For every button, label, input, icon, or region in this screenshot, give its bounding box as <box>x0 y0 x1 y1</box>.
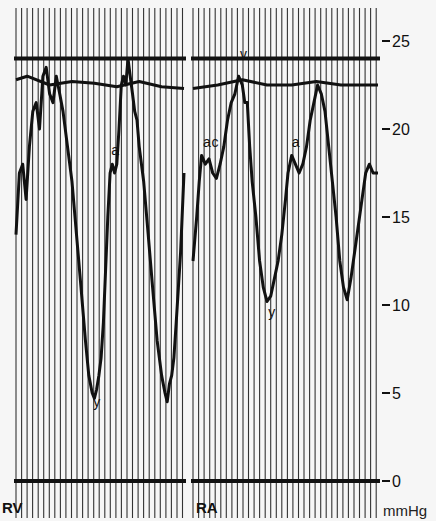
wave-label: v <box>240 46 247 62</box>
pressure-trace <box>16 59 184 402</box>
y-tick-label: 10 <box>392 297 410 314</box>
wave-label: a <box>292 134 300 150</box>
wave-label: a <box>111 142 119 158</box>
wave-label: c <box>212 134 219 150</box>
wave-label: y <box>268 304 275 320</box>
unit-label: mmHg <box>383 502 427 519</box>
y-tick-label: 20 <box>392 121 410 138</box>
y-tick-label: 5 <box>392 385 401 402</box>
rv-panel-label: RV <box>2 499 23 516</box>
ra-panel-label: RA <box>196 499 218 516</box>
y-tick-label: 15 <box>392 209 410 226</box>
y-tick-label: 0 <box>392 473 401 490</box>
wave-label: y <box>93 394 100 410</box>
y-axis: 2520151050 <box>382 33 410 490</box>
y-tick-label: 25 <box>392 33 410 50</box>
pressure-tracing-chart: ayacvya 2520151050 RV RA mmHg <box>0 0 436 521</box>
pressure-traces <box>16 59 378 402</box>
wave-label: a <box>203 134 211 150</box>
